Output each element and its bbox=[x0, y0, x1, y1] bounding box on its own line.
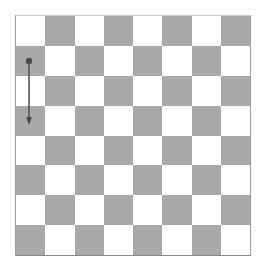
board-square-r1-c2[interactable] bbox=[45, 16, 74, 46]
board-square-r3-c6[interactable] bbox=[162, 76, 191, 106]
board-square-r2-c6[interactable] bbox=[162, 46, 191, 76]
board-square-r1-c6[interactable] bbox=[162, 16, 191, 46]
board-square-r6-c7[interactable] bbox=[192, 165, 221, 195]
board-square-r3-c1[interactable] bbox=[16, 76, 45, 106]
board-square-r4-c4[interactable] bbox=[104, 106, 133, 136]
board-square-r8-c2[interactable] bbox=[45, 225, 74, 255]
board-square-r8-c8[interactable] bbox=[221, 225, 250, 255]
board-square-r6-c2[interactable] bbox=[45, 165, 74, 195]
board-square-r4-c2[interactable] bbox=[45, 106, 74, 136]
board-square-r6-c3[interactable] bbox=[75, 165, 104, 195]
board-square-r7-c2[interactable] bbox=[45, 195, 74, 225]
board-square-r3-c5[interactable] bbox=[133, 76, 162, 106]
board-square-r5-c6[interactable] bbox=[162, 136, 191, 166]
board-square-r2-c5[interactable] bbox=[133, 46, 162, 76]
board-square-r6-c8[interactable] bbox=[221, 165, 250, 195]
board-square-r5-c8[interactable] bbox=[221, 136, 250, 166]
board-square-r8-c5[interactable] bbox=[133, 225, 162, 255]
board-square-r2-c1[interactable] bbox=[16, 46, 45, 76]
board-square-r6-c4[interactable] bbox=[104, 165, 133, 195]
board-square-r4-c6[interactable] bbox=[162, 106, 191, 136]
board-square-r3-c7[interactable] bbox=[192, 76, 221, 106]
board-square-r4-c5[interactable] bbox=[133, 106, 162, 136]
board-square-r2-c2[interactable] bbox=[45, 46, 74, 76]
board-square-r6-c5[interactable] bbox=[133, 165, 162, 195]
board-square-r3-c4[interactable] bbox=[104, 76, 133, 106]
board-square-r3-c3[interactable] bbox=[75, 76, 104, 106]
board-square-r8-c1[interactable] bbox=[16, 225, 45, 255]
board-square-r5-c1[interactable] bbox=[16, 136, 45, 166]
board-square-r2-c7[interactable] bbox=[192, 46, 221, 76]
board-square-r2-c8[interactable] bbox=[221, 46, 250, 76]
board-square-r7-c1[interactable] bbox=[16, 195, 45, 225]
board-square-r7-c3[interactable] bbox=[75, 195, 104, 225]
board-square-r4-c8[interactable] bbox=[221, 106, 250, 136]
board-square-r7-c4[interactable] bbox=[104, 195, 133, 225]
board-square-r8-c4[interactable] bbox=[104, 225, 133, 255]
board-square-r5-c7[interactable] bbox=[192, 136, 221, 166]
board-square-r4-c3[interactable] bbox=[75, 106, 104, 136]
board-square-r2-c4[interactable] bbox=[104, 46, 133, 76]
board-square-r2-c3[interactable] bbox=[75, 46, 104, 76]
board-square-r6-c6[interactable] bbox=[162, 165, 191, 195]
board-square-r5-c3[interactable] bbox=[75, 136, 104, 166]
board-square-r8-c6[interactable] bbox=[162, 225, 191, 255]
board-square-r1-c8[interactable] bbox=[221, 16, 250, 46]
board-square-r5-c5[interactable] bbox=[133, 136, 162, 166]
board-square-r7-c8[interactable] bbox=[221, 195, 250, 225]
board-square-r1-c4[interactable] bbox=[104, 16, 133, 46]
board-square-r8-c7[interactable] bbox=[192, 225, 221, 255]
checkerboard bbox=[15, 15, 251, 256]
board-square-r3-c2[interactable] bbox=[45, 76, 74, 106]
board-square-r8-c3[interactable] bbox=[75, 225, 104, 255]
board-square-r4-c7[interactable] bbox=[192, 106, 221, 136]
board-square-r5-c4[interactable] bbox=[104, 136, 133, 166]
board-square-r1-c3[interactable] bbox=[75, 16, 104, 46]
board-square-r7-c7[interactable] bbox=[192, 195, 221, 225]
board-square-r1-c7[interactable] bbox=[192, 16, 221, 46]
board-square-r6-c1[interactable] bbox=[16, 165, 45, 195]
board-square-r5-c2[interactable] bbox=[45, 136, 74, 166]
board-square-r4-c1[interactable] bbox=[16, 106, 45, 136]
board-square-r1-c5[interactable] bbox=[133, 16, 162, 46]
board-square-r7-c5[interactable] bbox=[133, 195, 162, 225]
board-square-r7-c6[interactable] bbox=[162, 195, 191, 225]
board-square-r1-c1[interactable] bbox=[16, 16, 45, 46]
board-square-r3-c8[interactable] bbox=[221, 76, 250, 106]
